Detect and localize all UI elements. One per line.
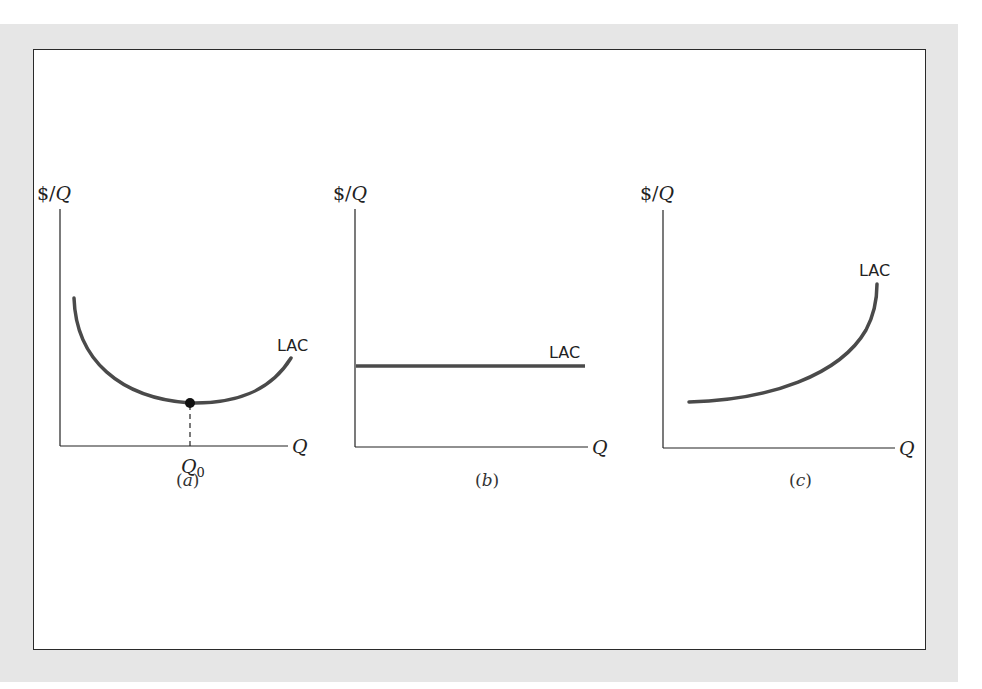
- lac-curve: [689, 284, 877, 402]
- panel-c: $/Q Q LAC (c): [640, 182, 915, 490]
- curve-label: LAC: [859, 261, 890, 280]
- x-axis-label: Q: [899, 437, 915, 459]
- curve-label: LAC: [277, 336, 308, 355]
- panel-a: $/Q Q LAC Q0 (a): [37, 182, 308, 490]
- x-axis-label: Q: [592, 436, 608, 458]
- y-axis-label: $/Q: [333, 182, 367, 204]
- y-axis-label: $/Q: [640, 182, 674, 204]
- x-axis-label: Q: [292, 435, 308, 457]
- panel-caption: (c): [789, 470, 812, 490]
- panel-caption: (b): [475, 470, 499, 490]
- panel-caption: (a): [176, 470, 199, 490]
- curve-label: LAC: [549, 343, 580, 362]
- y-axis-label: $/Q: [37, 182, 71, 204]
- lac-curve: [74, 298, 291, 403]
- min-point-marker: [185, 398, 195, 408]
- lac-figure: $/Q Q LAC Q0 (a) $/Q Q LAC (b) $/Q Q LAC…: [0, 0, 982, 689]
- panel-b: $/Q Q LAC (b): [333, 182, 608, 490]
